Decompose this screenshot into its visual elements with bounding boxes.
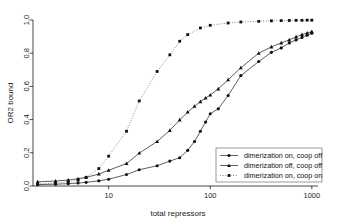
- data-point-square: [301, 19, 304, 22]
- y-tick-label: 0.0: [22, 181, 31, 191]
- data-point-square: [168, 53, 171, 56]
- data-point-square: [295, 19, 298, 22]
- data-point-square: [228, 174, 231, 177]
- x-tick-label: 1000: [303, 191, 320, 200]
- data-point-square: [288, 19, 291, 22]
- data-point-circle: [227, 94, 230, 97]
- data-point-circle: [280, 46, 283, 49]
- data-point-square: [85, 176, 88, 179]
- y-tick-label: 0.2: [22, 148, 31, 158]
- data-point-circle: [97, 179, 100, 182]
- data-point-circle: [227, 154, 230, 157]
- data-point-square: [239, 21, 242, 24]
- data-point-circle: [193, 140, 196, 143]
- y-tick-label: 0.4: [22, 114, 31, 124]
- data-point-circle: [199, 130, 202, 133]
- data-point-circle: [107, 178, 110, 181]
- data-point-square: [107, 155, 110, 158]
- data-point-circle: [295, 38, 298, 41]
- data-point-square: [227, 22, 230, 25]
- data-point-square: [280, 19, 283, 22]
- data-point-circle: [178, 156, 181, 159]
- data-point-square: [199, 27, 202, 30]
- data-point-circle: [138, 168, 141, 171]
- data-point-circle: [85, 181, 88, 184]
- x-axis-title: total repressors: [150, 209, 205, 218]
- y-tick-label: 0.6: [22, 81, 31, 91]
- chart-canvas: 0.00.20.40.60.81.0 101001000 dimerizatio…: [0, 0, 346, 224]
- data-point-square: [310, 19, 313, 22]
- y-axis-title: OR2 bound: [6, 83, 15, 124]
- data-point-circle: [239, 74, 242, 77]
- legend-label: dimerization on, coop off: [244, 151, 322, 160]
- data-point-square: [36, 183, 39, 186]
- data-point-square: [77, 179, 80, 182]
- data-point-square: [178, 40, 181, 43]
- data-point-circle: [270, 51, 273, 54]
- data-point-square: [138, 100, 141, 103]
- data-point-square: [257, 20, 260, 23]
- data-point-square: [67, 180, 70, 183]
- chart-background: [0, 0, 346, 224]
- data-point-circle: [168, 160, 171, 163]
- data-point-square: [270, 19, 273, 22]
- legend-label: dimerization on, coop on: [244, 171, 322, 180]
- data-point-square: [54, 182, 57, 185]
- data-point-square: [306, 19, 309, 22]
- data-point-square: [209, 24, 212, 27]
- y-tick-label: 1.0: [22, 15, 31, 25]
- data-point-square: [156, 70, 159, 73]
- data-point-circle: [77, 181, 80, 184]
- data-point-circle: [186, 149, 189, 152]
- data-point-circle: [257, 60, 260, 63]
- data-point-circle: [156, 164, 159, 167]
- data-point-square: [186, 33, 189, 36]
- data-point-circle: [204, 121, 207, 124]
- chart-figure: 0.00.20.40.60.81.0 101001000 dimerizatio…: [0, 0, 346, 224]
- data-point-square: [125, 130, 128, 133]
- data-point-circle: [300, 36, 303, 39]
- legend-label: dimerization off, coop off: [244, 161, 322, 170]
- data-point-circle: [217, 107, 220, 110]
- data-point-circle: [125, 173, 128, 176]
- data-point-circle: [288, 41, 291, 44]
- chart-legend[interactable]: dimerization on, coop offdimerization of…: [216, 148, 322, 182]
- y-tick-label: 0.8: [22, 48, 31, 58]
- data-point-circle: [209, 112, 212, 115]
- data-point-square: [97, 167, 100, 170]
- x-tick-label: 10: [104, 191, 112, 200]
- x-tick-label: 100: [204, 191, 217, 200]
